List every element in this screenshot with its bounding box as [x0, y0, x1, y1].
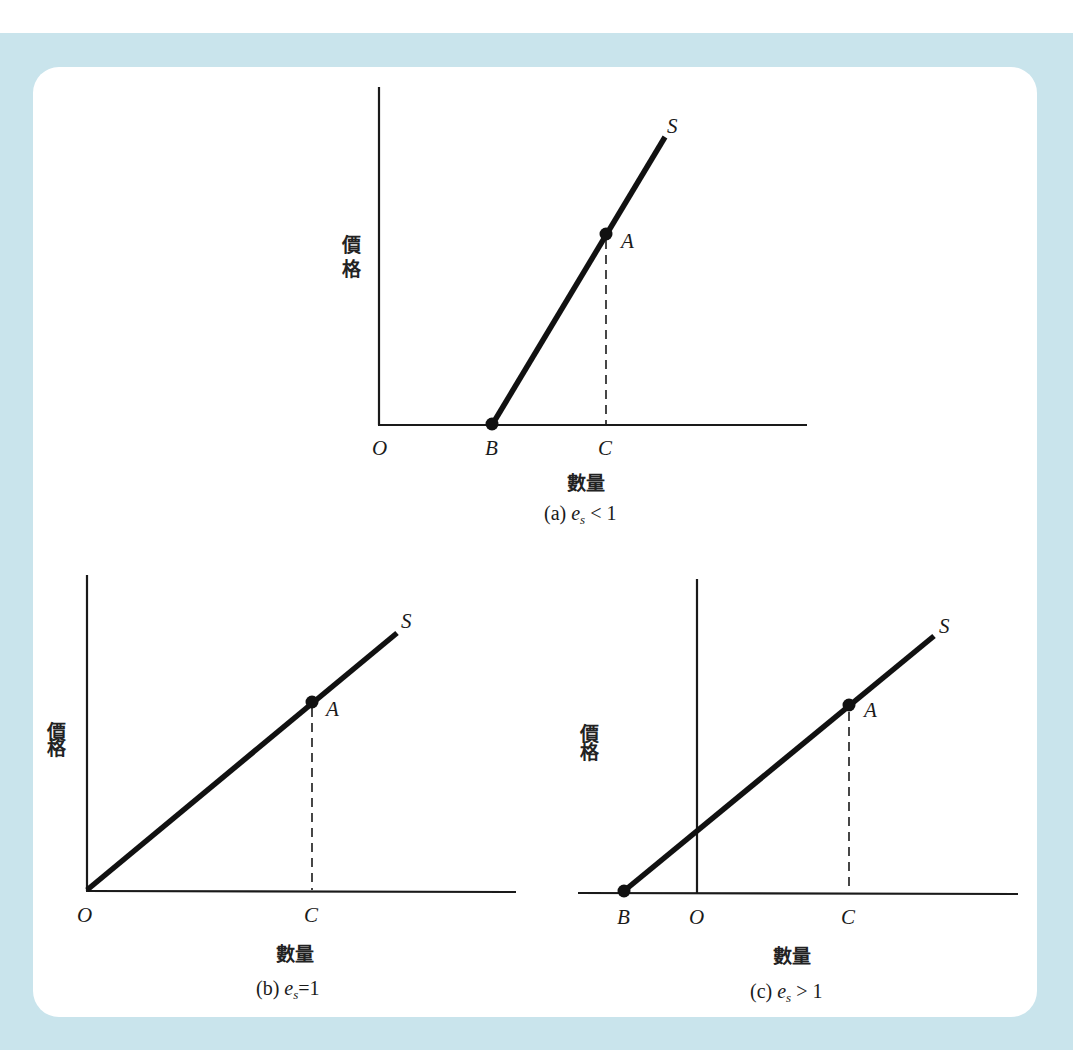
point-a-marker: [600, 228, 613, 241]
x-axis-label: 數量: [567, 472, 605, 494]
x-axis-c: [578, 893, 1018, 894]
y-axis-label-line2: 格: [580, 741, 600, 763]
origin-label: O: [77, 903, 92, 927]
supply-curve-a: [492, 137, 665, 425]
origin-label: O: [372, 436, 387, 460]
point-label-c: C: [304, 903, 319, 927]
curve-label-s: S: [667, 114, 678, 138]
curve-label-s: S: [939, 614, 950, 638]
figure-page: S A O B C 價 格 數量 (a) es < 1 S A O C 價 格 …: [0, 0, 1073, 1050]
caption-a: (a) es < 1: [544, 502, 616, 527]
point-label-b: B: [617, 905, 630, 929]
elasticity-diagrams: S A O B C 價 格 數量 (a) es < 1 S A O C 價 格 …: [0, 0, 1073, 1050]
supply-curve-b: [87, 633, 397, 890]
point-label-c: C: [841, 905, 856, 929]
x-axis-b: [86, 891, 516, 892]
point-label-a: A: [862, 698, 877, 722]
caption-b: (b) es=1: [256, 977, 320, 1002]
x-axis-label: 數量: [276, 943, 314, 965]
supply-curve-c: [624, 636, 934, 891]
diagram-a: S A O B C 價 格 數量 (a) es < 1: [341, 87, 807, 527]
point-label-a: A: [324, 697, 339, 721]
point-b-marker: [486, 418, 499, 431]
point-a-marker: [843, 699, 856, 712]
origin-label: O: [689, 905, 704, 929]
point-b-marker: [618, 885, 631, 898]
x-axis-label: 數量: [773, 945, 811, 967]
point-label-a: A: [619, 229, 634, 253]
diagram-b: S A O C 價 格 數量 (b) es=1: [46, 575, 516, 1002]
y-axis-label-line2: 格: [47, 737, 67, 759]
y-axis-label-line1: 價: [341, 234, 362, 256]
caption-c: (c) es > 1: [750, 980, 822, 1005]
point-label-c: C: [598, 436, 613, 460]
point-a-marker: [306, 696, 319, 709]
diagram-c: S A B O C 價 格 數量 (c) es > 1: [578, 579, 1018, 1005]
point-label-b: B: [485, 436, 498, 460]
curve-label-s: S: [401, 609, 412, 633]
y-axis-label-line2: 格: [342, 258, 362, 280]
